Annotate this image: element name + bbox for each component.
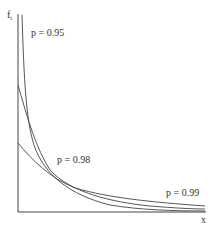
decay-chart: fi x p = 0.95 p = 0.98 p = 0.99 [0,0,215,226]
label-p099: p = 0.99 [166,187,199,198]
y-axis-label: fi [7,9,12,21]
label-p095: p = 0.95 [31,27,64,38]
x-axis-label: x [201,214,206,225]
curve-p095 [22,15,205,211]
label-p098: p = 0.98 [57,154,90,165]
